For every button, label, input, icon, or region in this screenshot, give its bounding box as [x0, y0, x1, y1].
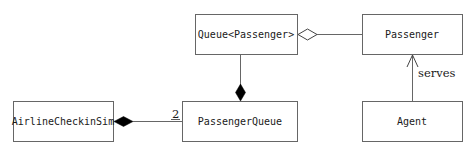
- composition-sim-pqueue: 2: [114, 107, 182, 127]
- class-passenger[interactable]: Passenger: [363, 15, 463, 55]
- class-queue-passenger[interactable]: Queue<Passenger>: [196, 15, 298, 55]
- class-name-agent: Agent: [397, 116, 427, 127]
- aggregation-queue-passenger: [298, 29, 362, 40]
- class-agent[interactable]: Agent: [363, 102, 463, 142]
- multiplicity-label: 2: [172, 107, 179, 121]
- uml-diagram-canvas: Queue<Passenger> Passenger AirlineChecki…: [0, 0, 476, 150]
- hollow-diamond-icon: [298, 29, 317, 40]
- composition-pqueue-queue: [236, 54, 246, 101]
- association-agent-passenger: serves: [407, 55, 456, 101]
- filled-diamond-icon: [114, 117, 133, 127]
- class-name-queue: Queue<Passenger>: [198, 29, 294, 40]
- class-name-passenger: Passenger: [385, 29, 439, 40]
- filled-diamond-icon: [236, 84, 246, 101]
- class-name-pqueue: PassengerQueue: [198, 116, 282, 127]
- class-passenger-queue[interactable]: PassengerQueue: [183, 102, 298, 142]
- association-label-serves: serves: [418, 66, 456, 80]
- class-name-sim: AirlineCheckinSim: [12, 116, 114, 127]
- class-airline-checkin-sim[interactable]: AirlineCheckinSim: [12, 102, 114, 142]
